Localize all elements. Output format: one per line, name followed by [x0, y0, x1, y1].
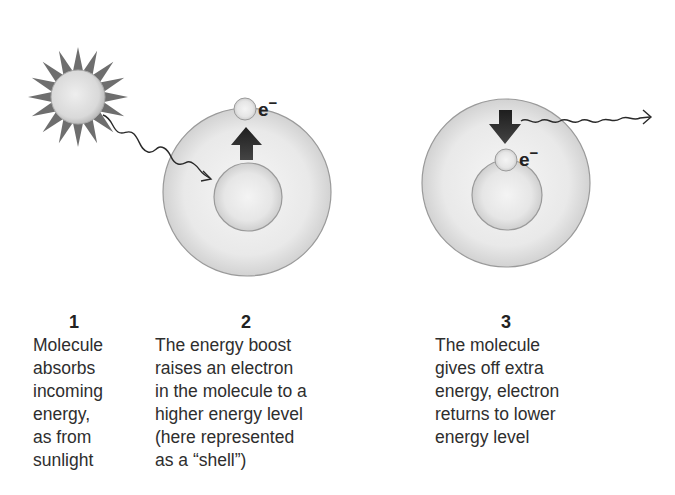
caption-line: absorbs — [33, 357, 103, 380]
caption-line: returns to lower — [435, 403, 559, 426]
caption-line: Molecule — [33, 334, 103, 357]
inner-shell — [214, 163, 282, 231]
step-caption-3: The molecule gives off extra energy, ele… — [435, 334, 559, 449]
step-caption-1: Molecule absorbs incoming energy, as fro… — [33, 334, 103, 472]
step-number-1: 1 — [62, 312, 86, 333]
electron — [495, 149, 517, 171]
caption-line: incoming — [33, 380, 103, 403]
caption-line: in the molecule to a — [155, 380, 307, 403]
caption-line: as a “shell”) — [155, 449, 307, 472]
caption-line: The molecule — [435, 334, 559, 357]
caption-line: energy level — [435, 426, 559, 449]
caption-line: raises an electron — [155, 357, 307, 380]
caption-line: energy, — [33, 403, 103, 426]
molecule-excited: e− — [163, 94, 331, 276]
caption-line: higher energy level — [155, 403, 307, 426]
molecule-relaxed: e− — [422, 99, 590, 267]
step-number-2: 2 — [234, 312, 258, 333]
caption-line: gives off extra — [435, 357, 559, 380]
caption-line: (here represented — [155, 426, 307, 449]
step-caption-2: The energy boost raises an electron in t… — [155, 334, 307, 472]
caption-line: energy, electron — [435, 380, 559, 403]
caption-line: sunlight — [33, 449, 103, 472]
electron — [234, 98, 256, 120]
step-number-3: 3 — [494, 312, 518, 333]
caption-line: as from — [33, 426, 103, 449]
caption-line: The energy boost — [155, 334, 307, 357]
sun-icon — [28, 47, 128, 147]
